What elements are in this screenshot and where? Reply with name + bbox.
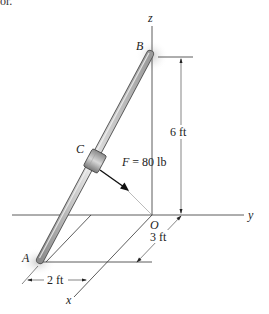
force-arrow [100,170,124,187]
width-arrow-left [27,279,32,282]
force-label: F = 80 lb [121,155,166,169]
point-c-label: C [76,142,85,156]
x-axis-label: x [65,293,72,307]
y-axis-label: y [247,208,254,222]
height-dimension-label: 6 ft [170,125,187,139]
x-axis [74,215,152,297]
force-line-of-action [127,190,152,215]
force-arrowhead [120,183,129,192]
depth-dimension-label: 3 ft [150,230,167,244]
width-dimension-label: 2 ft [47,273,64,287]
point-b-label: B [136,39,144,53]
width-arrow-right [82,279,87,282]
z-axis-label: z [147,11,153,25]
rod-force-diagram: z y x O 6 ft 3 ft 2 ft F = 80 lb [0,0,269,314]
height-arrow-bottom [180,209,183,214]
point-a-label: A [21,251,30,265]
height-arrow-top [180,58,183,63]
